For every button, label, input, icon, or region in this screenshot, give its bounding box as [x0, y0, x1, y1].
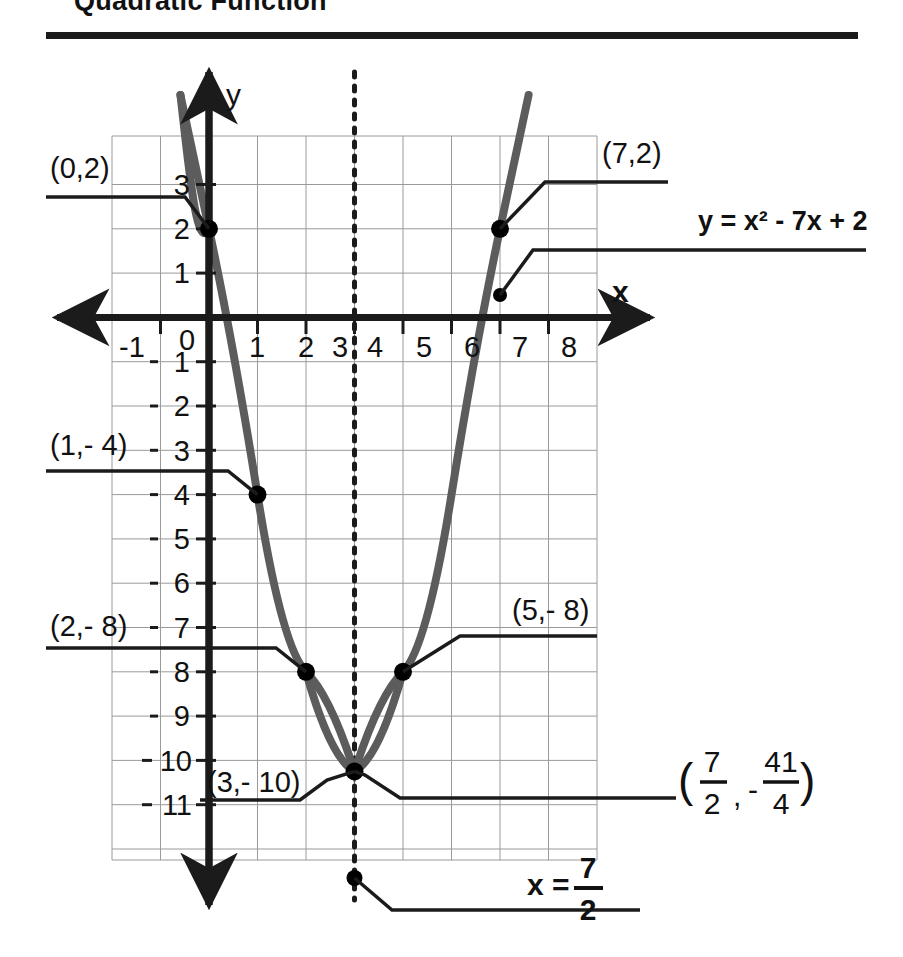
point-label-p5: (5,- 8) [512, 594, 589, 626]
y-tick-label: 4 [174, 479, 190, 511]
x-tick-label: -1 [119, 331, 145, 363]
y-tick-label: 9 [174, 700, 190, 732]
vertex-comma: , [733, 779, 741, 812]
x-axis-label: x [612, 275, 629, 308]
y-tick-label: 6 [174, 567, 190, 599]
y-tick-label: 10 [160, 745, 192, 777]
x-tick-label: 1 [249, 331, 265, 363]
vertex-paren-close: ) [800, 754, 815, 806]
point-label-p0: (0,2) [50, 152, 110, 184]
y-tick-label: 2 [174, 390, 190, 422]
y-tick-label: 3 [174, 435, 190, 467]
y-tick-label: 7 [174, 612, 190, 644]
vertex-x-numerator: 7 [704, 745, 721, 778]
vertex-y-denominator: 4 [773, 787, 790, 820]
vertex-label: ( 7 2 , - 41 4 ) [678, 745, 815, 820]
y-tick-label: 1 [174, 346, 190, 378]
leader-line-p7 [500, 182, 668, 229]
x-tick-label: 6 [464, 331, 480, 363]
symmetry-numerator: 7 [580, 851, 597, 884]
leader-line-p1 [46, 471, 258, 495]
quadratic-function-figure: y x -1 0 1 2 3 4 5 6 7 8 3 2 1 1 2 3 4 5… [0, 0, 903, 957]
y-tick-label: 8 [174, 656, 190, 688]
y-tick-label: 2 [174, 213, 190, 245]
point-label-p3: (3,- 10) [207, 766, 300, 798]
point-label-p2: (2,- 8) [50, 610, 127, 642]
y-tick-label: 5 [174, 523, 190, 555]
vertex-x-denominator: 2 [704, 787, 721, 820]
y-axis-label: y [226, 78, 241, 111]
x-tick-label: 3 [332, 331, 348, 363]
vertex-paren-open: ( [678, 754, 694, 806]
leader-line-symmetry [355, 878, 641, 910]
y-tick-label: 11 [162, 789, 192, 821]
symmetry-prefix: x = [527, 868, 570, 901]
x-tick-label: 5 [416, 331, 432, 363]
graph-svg: y x -1 0 1 2 3 4 5 6 7 8 3 2 1 1 2 3 4 5… [0, 0, 903, 957]
point-label-p7: (7,2) [602, 137, 662, 169]
vertex-y-numerator: 41 [764, 745, 797, 778]
x-tick-label: 4 [367, 331, 383, 363]
leader-line-equation [500, 250, 866, 295]
x-tick-label: 8 [561, 331, 577, 363]
y-tick-label: 1 [174, 257, 190, 289]
symmetry-denominator: 2 [580, 893, 597, 926]
axis-of-symmetry-label: x = 7 2 [527, 851, 603, 926]
vertex-minus-sign: - [748, 773, 758, 806]
x-tick-label: 7 [512, 331, 528, 363]
x-tick-label: 2 [298, 331, 314, 363]
point-label-p1: (1,- 4) [50, 429, 127, 461]
equation-label: y = x² - 7x + 2 [698, 206, 868, 236]
